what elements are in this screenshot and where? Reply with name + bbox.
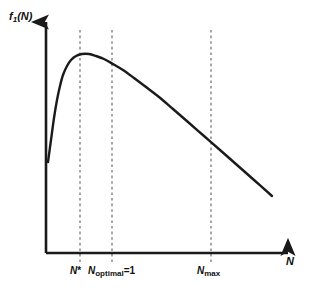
tick-label-n-star: N* [70,266,81,276]
y-axis-label-argument: (N) [17,10,32,22]
chart-figure: f1(N) N N* Noptimal=1 Nmax [0,0,313,298]
plot-canvas [0,0,313,298]
tick-label-n-max: Nmax [197,266,220,278]
tick-label-n-star-asterisk: * [77,265,81,276]
tick-label-n-optimal: Noptimal=1 [88,266,135,278]
curve-f1 [48,54,272,196]
tick-label-n-optimal-subscript: optimal [95,269,123,278]
dashed-guide-lines [80,30,211,262]
tick-label-n-optimal-value: =1 [124,265,135,276]
y-axis-label: f1(N) [9,11,32,24]
x-axis-label: N [286,256,294,267]
tick-label-n-max-subscript: max [204,269,220,278]
